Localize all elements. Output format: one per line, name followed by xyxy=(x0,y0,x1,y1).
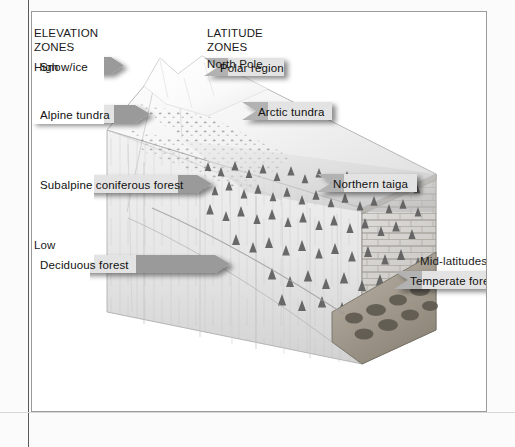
tag-temperate-forest-label: Temperate forest xyxy=(394,275,487,287)
latitude-extreme-mid-latitudes: Mid-latitudes xyxy=(420,254,487,268)
tag-subalpine-coniferous-forest-label: Subalpine coniferous forest xyxy=(34,179,183,191)
tag-northern-taiga-label: Northern taiga xyxy=(317,178,408,190)
illustration-box: ELEVATION ZONES High Snow/ice Alpine tun… xyxy=(31,11,487,412)
tag-subalpine-coniferous-forest[interactable]: Subalpine coniferous forest xyxy=(34,176,183,193)
tag-alpine-tundra[interactable]: Alpine tundra xyxy=(34,106,110,123)
tag-arctic-tundra-label: Arctic tundra xyxy=(242,106,325,118)
label-layer: ELEVATION ZONES High Snow/ice Alpine tun… xyxy=(32,12,486,411)
frame-bottom-rule xyxy=(0,412,515,413)
frame-left-rule xyxy=(28,0,29,447)
tag-northern-taiga[interactable]: Northern taiga xyxy=(317,175,408,192)
elevation-zones-heading-line1: ELEVATION xyxy=(34,26,98,40)
tag-deciduous-forest-label: Deciduous forest xyxy=(34,259,129,271)
tag-temperate-forest[interactable]: Temperate forest xyxy=(394,272,487,289)
latitude-zones-heading-line2: ZONES xyxy=(207,40,247,54)
elevation-extreme-low: Low xyxy=(34,238,56,252)
elevation-zones-heading-line2: ZONES xyxy=(34,40,74,54)
tag-alpine-tundra-label: Alpine tundra xyxy=(34,109,110,121)
latitude-zones-heading-line1: LATITUDE xyxy=(207,26,263,40)
tag-snow-ice[interactable]: Snow/ice xyxy=(34,58,88,75)
tag-polar-region-label: Polar region xyxy=(204,62,284,74)
tag-arctic-tundra[interactable]: Arctic tundra xyxy=(242,103,325,120)
tag-polar-region[interactable]: Polar region xyxy=(204,59,284,76)
figure-frame: ELEVATION ZONES High Snow/ice Alpine tun… xyxy=(0,0,515,447)
tag-snow-ice-label: Snow/ice xyxy=(34,61,88,73)
tag-deciduous-forest[interactable]: Deciduous forest xyxy=(34,256,129,273)
